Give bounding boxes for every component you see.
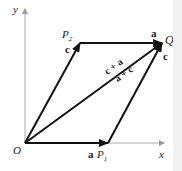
vector-a-top-label: a	[151, 27, 157, 39]
vector-c-right-label: c	[163, 50, 168, 62]
origin-label: O	[13, 144, 21, 156]
vector-c-left	[25, 43, 80, 143]
y-axis-label: y	[12, 3, 18, 15]
vector-sum-diagonal	[25, 43, 162, 143]
page-edge-strip	[173, 0, 182, 171]
x-axis-label: x	[158, 148, 164, 160]
point-p1-label: P1	[96, 148, 107, 163]
point-p2-label: P2	[61, 28, 73, 43]
vector-c-left-label: c	[65, 43, 70, 55]
vector-a-bottom-label: a	[88, 148, 94, 160]
vector-addition-diagram: y x O a P1 P2 c a Q c c + a a + c	[0, 0, 182, 171]
